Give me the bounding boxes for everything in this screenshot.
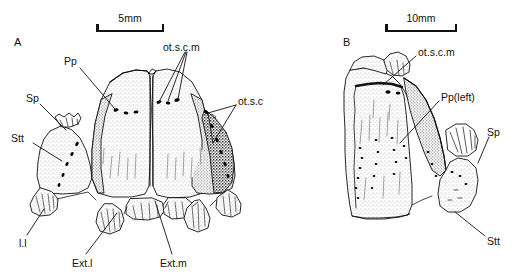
panel-b-scalebar-cap-left [385,24,388,32]
label-sp-b: Sp [487,127,500,138]
label-stt-b: Stt [487,236,500,247]
figure-root: A 5mm Pp Sp Stt ot.s.c.m ot.s.c l.l Ext.… [0,0,522,276]
panel-a-letter: A [14,36,22,48]
label-otscm: ot.s.c.m [163,42,200,53]
label-sp: Sp [26,93,39,104]
panel-b-scalebar-line [385,30,457,33]
panel-a-scalebar-cap-left [96,24,99,32]
label-extl: Ext.l [72,258,92,269]
panel-a-drawing [0,0,300,276]
panel-a: A 5mm Pp Sp Stt ot.s.c.m ot.s.c l.l Ext.… [0,0,300,276]
panel-a-scalebar-label: 5mm [96,12,164,24]
label-pp-left: Pp(left) [441,92,475,103]
panel-a-scalebar: 5mm [96,12,164,32]
label-ll: l.l [19,238,27,249]
panel-a-scalebar-cap-right [162,24,165,32]
panel-b-scalebar-cap-right [455,24,458,32]
panel-b: B 10mm ot.s.c.m Pp(left) Sp Stt [300,0,522,276]
panel-b-letter: B [343,36,351,48]
label-otscm-b: ot.s.c.m [418,47,455,58]
panel-a-scalebar-line [96,30,164,33]
label-pp: Pp [64,56,77,67]
panel-b-scalebar: 10mm [385,12,457,32]
label-stt: Stt [11,133,24,144]
label-extm: Ext.m [160,258,187,269]
panel-b-scalebar-label: 10mm [385,12,457,24]
label-otsc: ot.s.c [238,96,263,107]
